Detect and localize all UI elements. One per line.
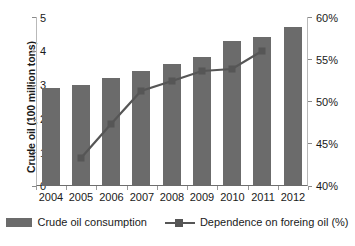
x-tickmark-6 bbox=[217, 186, 218, 190]
x-label-2004: 2004 bbox=[36, 192, 66, 203]
legend-label-dependence-on-foreign-oil: Dependence on foreing oil (%) bbox=[200, 216, 349, 228]
x-label-2011: 2011 bbox=[248, 192, 278, 203]
y-tick-right-60: 60% bbox=[316, 13, 355, 24]
bar-swatch-icon bbox=[6, 218, 32, 227]
x-label-2008: 2008 bbox=[157, 192, 187, 203]
y-tickmark-left-3 bbox=[32, 85, 36, 86]
x-tickmark-7 bbox=[248, 186, 249, 190]
x-label-2006: 2006 bbox=[96, 192, 127, 203]
bar-2012 bbox=[284, 27, 302, 186]
bar-2008 bbox=[163, 64, 181, 186]
x-tickmark-0 bbox=[36, 186, 37, 190]
x-label-2009: 2009 bbox=[187, 192, 217, 203]
y-tick-right-45: 45% bbox=[316, 139, 355, 150]
x-label-2012: 2012 bbox=[278, 192, 308, 203]
x-tickmark-3 bbox=[127, 186, 128, 190]
x-tickmark-1 bbox=[66, 186, 67, 190]
line-marker-icon bbox=[165, 218, 195, 227]
y-tick-left-4: 4 bbox=[16, 46, 46, 57]
y-tickmark-left-4 bbox=[32, 51, 36, 52]
x-tickmark-2 bbox=[96, 186, 97, 190]
bar-2004 bbox=[42, 88, 60, 186]
y-tickmark-right-45 bbox=[308, 143, 312, 144]
legend-item-crude-oil-consumption[interactable]: Crude oil consumption bbox=[6, 216, 146, 228]
bar-2009 bbox=[193, 57, 211, 186]
x-label-2010: 2010 bbox=[217, 192, 248, 203]
y-tick-right-40: 40% bbox=[316, 181, 355, 192]
y-tickmark-left-5 bbox=[32, 17, 36, 18]
chart-container: Crude oil (100 million tons) 5 4 3 2 1 0… bbox=[0, 0, 355, 246]
bar-2007 bbox=[132, 71, 150, 186]
y-tickmark-right-60 bbox=[308, 17, 312, 18]
bar-2005 bbox=[72, 85, 90, 186]
legend-label-crude-oil-consumption: Crude oil consumption bbox=[37, 216, 146, 228]
y-tickmark-right-50 bbox=[308, 101, 312, 102]
y-tick-left-5: 5 bbox=[16, 13, 46, 24]
x-tickmark-8 bbox=[278, 186, 279, 190]
y-tick-right-55: 55% bbox=[316, 55, 355, 66]
x-tickmark-5 bbox=[187, 186, 188, 190]
bar-2011 bbox=[253, 37, 271, 186]
y-tick-right-50: 50% bbox=[316, 97, 355, 108]
x-label-2005: 2005 bbox=[66, 192, 96, 203]
y-tickmark-left-1 bbox=[32, 152, 36, 153]
legend-item-dependence-on-foreign-oil[interactable]: Dependence on foreing oil (%) bbox=[165, 216, 349, 228]
x-tickmark-9 bbox=[308, 186, 309, 190]
x-label-2007: 2007 bbox=[127, 192, 157, 203]
y-tickmark-right-55 bbox=[308, 59, 312, 60]
chart-legend: Crude oil consumption Dependence on fore… bbox=[0, 216, 355, 228]
bar-2010 bbox=[223, 41, 241, 186]
bar-2006 bbox=[102, 78, 120, 186]
x-tickmark-4 bbox=[157, 186, 158, 190]
y-tickmark-left-2 bbox=[32, 119, 36, 120]
